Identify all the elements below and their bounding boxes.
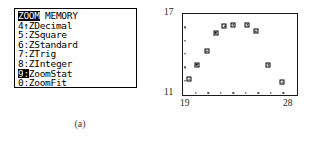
x-axis-tick — [245, 92, 246, 94]
data-point — [213, 30, 218, 35]
plot-data-area — [183, 14, 297, 95]
figure-a-calculator-menu: ZOOM MEMORY 4↑ZDecimal 5:ZSquare 6:ZStan… — [0, 0, 160, 142]
x-axis-tick — [195, 92, 196, 94]
y-axis-max-label: 17 — [164, 7, 174, 17]
menu-item-zoomfit[interactable]: 0:ZoomFit — [18, 78, 136, 88]
data-point — [194, 62, 199, 67]
x-axis-min-label: 19 — [180, 98, 190, 108]
y-axis-min-label: 11 — [164, 87, 173, 97]
data-point — [253, 29, 258, 34]
x-axis-tick — [270, 92, 271, 94]
x-axis-tick — [283, 92, 284, 94]
data-point — [245, 22, 250, 27]
data-point — [266, 62, 271, 67]
calculator-screen: ZOOM MEMORY 4↑ZDecimal 5:ZSquare 6:ZStan… — [14, 8, 137, 88]
figure-caption-a: (a) — [0, 118, 160, 129]
x-axis-max-label: 28 — [283, 98, 293, 108]
y-axis-tick — [184, 67, 186, 68]
figure-b-scatter-plot: 17 11 19 28 (b) — [160, 0, 321, 142]
x-axis-tick — [207, 92, 208, 94]
data-point — [187, 77, 192, 82]
y-axis-tick — [184, 27, 186, 28]
y-axis-tick — [184, 53, 186, 54]
x-axis-tick — [220, 92, 221, 94]
x-axis-tick — [233, 92, 234, 94]
x-axis-tick — [258, 92, 259, 94]
data-point — [222, 24, 227, 29]
data-point — [280, 80, 285, 85]
y-axis-tick — [184, 40, 186, 41]
menu-item-label: ZoomFit — [29, 78, 67, 88]
data-point — [231, 22, 236, 27]
y-axis-tick — [184, 80, 186, 81]
plot-frame — [182, 13, 298, 96]
data-point — [204, 49, 209, 54]
